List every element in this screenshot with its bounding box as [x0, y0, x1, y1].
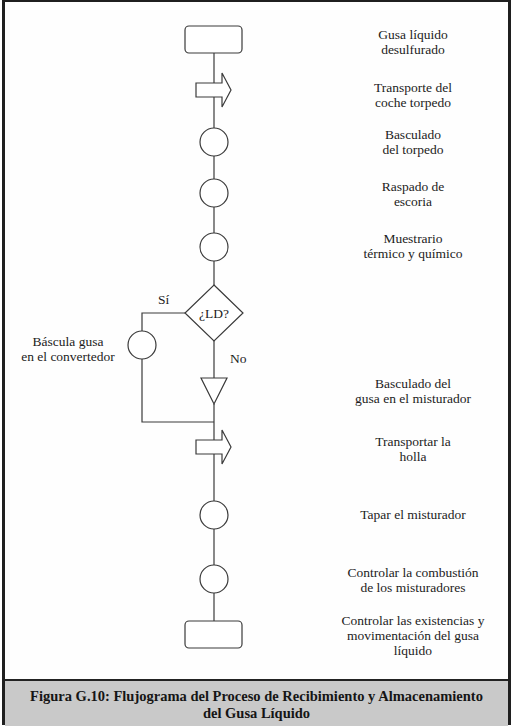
label-basculado-torpedo: Basculado del torpedo	[330, 127, 496, 157]
label-line: Controlar las existencias y	[330, 613, 496, 628]
label-line: Tapar el misturador	[330, 507, 496, 522]
label-line: líquido	[330, 643, 496, 658]
label-basculado-misturador: Basculado del gusa en el misturador	[330, 376, 496, 406]
label-gusa-liquido: Gusa líquido desulfurado	[330, 27, 496, 57]
label-line: Gusa líquido	[330, 27, 496, 42]
label-line: del torpedo	[330, 142, 496, 157]
label-line: Báscula gusa	[14, 334, 122, 349]
operation-circle-icon	[200, 179, 228, 207]
operation-circle-icon	[200, 128, 228, 156]
label-transporte-torpedo: Transporte del coche torpedo	[330, 80, 496, 110]
label-tapar-misturador: Tapar el misturador	[330, 507, 496, 522]
label-line: desulfurado	[330, 42, 496, 57]
label-raspado-escoria: Raspado de escoria	[330, 179, 496, 209]
label-line: Raspado de	[330, 179, 496, 194]
operation-circle-icon	[200, 233, 228, 261]
label-line: Muestrario	[330, 231, 496, 246]
caption-line-2: del Gusa Líquido	[5, 705, 508, 722]
end-terminal-shape	[185, 621, 242, 648]
label-line: gusa en el misturador	[330, 391, 496, 406]
label-line: térmico y químico	[330, 246, 496, 261]
label-line: movimentación del gusa	[330, 628, 496, 643]
label-line: en el convertedor	[14, 349, 122, 364]
label-line: escoria	[330, 194, 496, 209]
yes-branch-line	[142, 313, 185, 331]
label-line: Basculado	[330, 127, 496, 142]
label-bascula-convertedor: Báscula gusa en el convertedor	[14, 334, 122, 364]
caption-line-1: Figura G.10: Flujograma del Proceso de R…	[5, 688, 508, 705]
storage-triangle-icon	[201, 378, 227, 404]
label-line: coche torpedo	[330, 95, 496, 110]
label-line: de los misturadores	[330, 580, 496, 595]
operation-circle-icon	[200, 565, 228, 593]
operation-circle-icon	[128, 331, 156, 359]
label-line: holla	[330, 449, 496, 464]
figure-caption: Figura G.10: Flujograma del Proceso de R…	[5, 679, 508, 726]
operation-circle-icon	[200, 501, 228, 529]
yes-branch-label: Sí	[158, 292, 169, 307]
label-line: Basculado del	[330, 376, 496, 391]
no-branch-label: No	[230, 351, 247, 366]
decision-label: ¿LD?	[199, 306, 229, 321]
label-muestrario: Muestrario térmico y químico	[330, 231, 496, 261]
merge-line	[142, 359, 214, 422]
label-controlar-combustion: Controlar la combustión de los misturado…	[330, 565, 496, 595]
label-line: Transporte del	[330, 80, 496, 95]
label-controlar-existencias: Controlar las existencias y movimentació…	[330, 613, 496, 658]
label-line: Transportar la	[330, 434, 496, 449]
label-transportar-holla: Transportar la holla	[330, 434, 496, 464]
start-terminal-shape	[185, 26, 242, 53]
label-line: Controlar la combustión	[330, 565, 496, 580]
